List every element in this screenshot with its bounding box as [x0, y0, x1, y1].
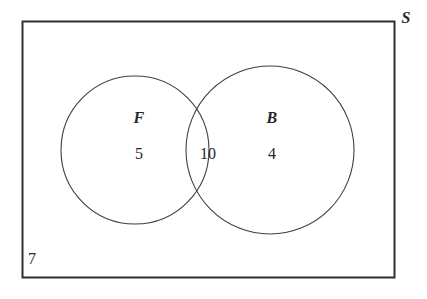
set-label-b: B — [267, 110, 278, 126]
set-label-f: F — [134, 110, 145, 126]
region-count-f-only: 5 — [135, 146, 143, 162]
region-count-b-only: 4 — [268, 146, 276, 162]
venn-diagram-figure: F 5 10 B 4 7 S — [0, 0, 427, 299]
region-count-outside: 7 — [28, 251, 36, 267]
region-count-intersection: 10 — [200, 146, 216, 162]
universal-set-label: S — [402, 10, 411, 26]
